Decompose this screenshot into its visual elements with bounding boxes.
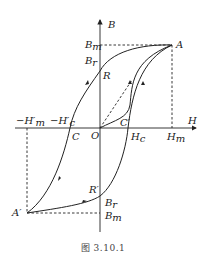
figure-caption: 图 3.10.1 xyxy=(0,241,206,254)
point-a-label: A xyxy=(175,39,183,50)
point-a-prime-label: A′ xyxy=(11,207,22,218)
hm-label: Hm xyxy=(166,131,185,144)
point-c-label: C xyxy=(72,131,80,142)
hysteresis-figure: B H O A A′ R R′ C C′ Bm Br Br Bm Hm Hc −… xyxy=(0,0,206,263)
hc-label: Hc xyxy=(130,131,146,144)
neg-hm-label: −H′m xyxy=(16,115,45,128)
bm-top-label: Bm xyxy=(84,39,102,52)
h-axis-label: H xyxy=(187,115,197,126)
descending-branch xyxy=(27,45,172,213)
neg-hc-label: −H′c xyxy=(50,115,75,128)
b-axis-label: B xyxy=(107,19,115,30)
br-top-label: Br xyxy=(84,55,98,68)
initial-magnetization-curve xyxy=(100,45,172,128)
point-r-label: R xyxy=(102,70,111,81)
origin-label: O xyxy=(91,130,99,141)
point-r-prime-label: R′ xyxy=(88,184,100,195)
br-bottom-label: Br xyxy=(104,197,118,210)
bm-bottom-label: Bm xyxy=(104,210,122,223)
point-c-prime-label: C′ xyxy=(120,117,131,128)
